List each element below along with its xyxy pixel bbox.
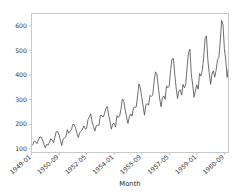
y-tick-label: 500: [15, 47, 27, 54]
y-tick-label: 200: [15, 120, 27, 127]
chart-figure: 100200300400500600 1949-011950-091952-05…: [0, 0, 248, 195]
line-chart: 100200300400500600 1949-011950-091952-05…: [0, 0, 248, 195]
y-tick-label: 600: [15, 22, 27, 29]
y-tick-label: 400: [15, 71, 27, 78]
y-tick-label: 300: [15, 96, 27, 103]
x-axis-title: Month: [119, 180, 140, 188]
y-tick-label: 100: [15, 145, 27, 152]
